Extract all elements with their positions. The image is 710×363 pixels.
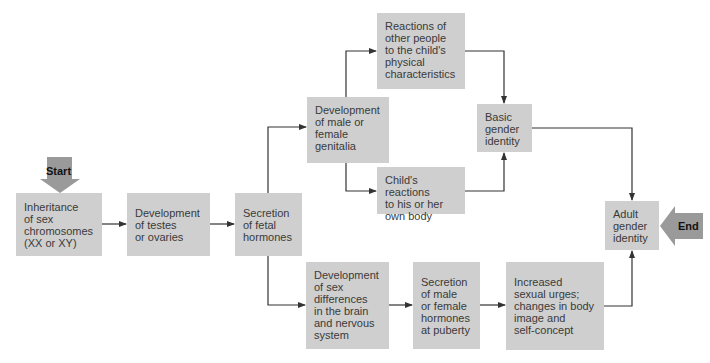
node-sexual-urges: Increased sexual urges; changes in body … <box>506 262 604 350</box>
node-puberty-hormones: Secretion of male or female hormones at … <box>413 262 480 349</box>
node-brain-differences: Development of sex differences in the br… <box>306 262 389 349</box>
node-fetal-hormones: Secretion of fetal hormones <box>235 193 302 256</box>
arrow-fetal-to-genitalia <box>268 127 306 193</box>
arrow-genitalia-to-reactions-others <box>346 51 376 97</box>
arrow-genitalia-to-child-reactions <box>346 163 376 191</box>
node-testes: Development of testes or ovaries <box>127 193 210 256</box>
node-reactions-others: Reactions of other people to the child's… <box>377 13 465 89</box>
node-inheritance: Inheritance of sex chromosomes (XX or XY… <box>16 193 102 256</box>
arrow-child-reactions-to-basic <box>465 153 504 191</box>
end-label: End <box>678 220 699 232</box>
arrow-basic-to-adult <box>532 128 632 200</box>
node-child-reactions: Child's reactions to his or her own body <box>377 167 465 214</box>
node-basic-identity: Basic gender identity <box>477 104 532 152</box>
arrow-urges-to-adult <box>604 251 632 306</box>
node-adult-identity: Adult gender identity <box>605 201 659 250</box>
arrow-reactions-others-to-basic <box>465 51 504 103</box>
node-genitalia: Development of male or female genitalia <box>307 97 389 163</box>
start-label: Start <box>46 165 71 177</box>
arrow-fetal-to-brain <box>268 256 305 305</box>
